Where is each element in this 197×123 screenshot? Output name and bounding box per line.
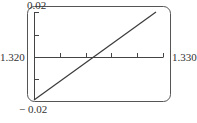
x-min-label: 1.320	[0, 52, 25, 63]
window-frame	[28, 7, 171, 102]
y-min-label: − 0.02	[19, 104, 47, 115]
x-max-label: 1.330	[172, 52, 197, 63]
x-ticks	[61, 53, 164, 58]
y-ticks	[35, 13, 40, 80]
y-max-label: 0.02	[27, 0, 46, 11]
